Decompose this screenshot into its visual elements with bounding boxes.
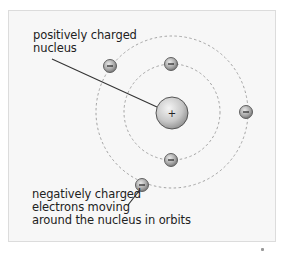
nucleus: + [156, 97, 188, 129]
nucleus-label-line-2: nucleus [33, 42, 137, 55]
corner-mark [261, 248, 264, 251]
electrons-label-line-3: around the nucleus in orbits [32, 214, 191, 227]
electron [165, 154, 178, 167]
electron [240, 106, 253, 119]
electron [104, 60, 117, 73]
nucleus-label: positively charged nucleus [33, 29, 137, 55]
electron [165, 58, 178, 71]
electrons-label: negatively charged electrons moving arou… [32, 188, 191, 227]
plus-icon: + [168, 108, 176, 119]
